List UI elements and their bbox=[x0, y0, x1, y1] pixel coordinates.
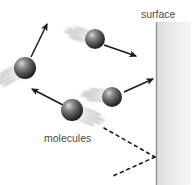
diagram-canvas: surface molecules bbox=[0, 0, 191, 185]
dashed-rays-group bbox=[104, 128, 155, 176]
arrow-to-surface bbox=[124, 79, 153, 92]
molecule-surface-diagram: surface molecules bbox=[0, 0, 191, 185]
arrow-up-right bbox=[31, 24, 47, 57]
dashed-outgoing-ray bbox=[113, 157, 155, 176]
arrow-down-right bbox=[104, 45, 136, 56]
molecule-upper-left bbox=[14, 57, 36, 79]
dashed-incoming-ray bbox=[104, 128, 155, 157]
molecule-lower-left bbox=[61, 99, 83, 121]
molecules-group bbox=[14, 29, 122, 121]
molecule-top-middle bbox=[85, 29, 105, 49]
surface-wall-fill bbox=[157, 22, 191, 185]
molecule-mid-right bbox=[102, 87, 122, 107]
surface-wall-group bbox=[157, 22, 192, 185]
surface-label: surface bbox=[141, 8, 176, 20]
molecules-label: molecules bbox=[44, 132, 91, 144]
arrow-up-left bbox=[32, 89, 63, 105]
